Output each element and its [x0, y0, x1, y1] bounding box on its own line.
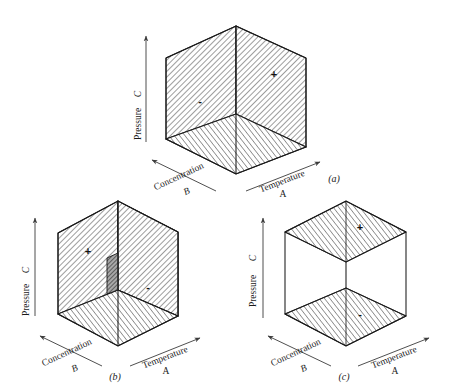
panel-caption-b: (b): [109, 371, 121, 383]
axis-vertical-b: C Pressure: [21, 218, 35, 316]
axis-vertical-name-c: Pressure: [248, 275, 258, 307]
axis-vertical-name-b: Pressure: [21, 284, 31, 316]
axis-vertical-letter-b: C: [21, 266, 31, 273]
axis-vertical-letter-c: C: [248, 254, 258, 261]
panel-caption-a: (a): [328, 173, 340, 185]
axis-depth-letter-c: B: [299, 362, 309, 374]
panel-a: C Pressure Concentration B Temperature A…: [128, 2, 368, 200]
axis-vertical-c: C Pressure: [248, 218, 263, 318]
axis-horizontal-letter-c: A: [392, 366, 399, 376]
axis-depth-b: Concentration B: [40, 336, 102, 374]
panel-caption-c: (c): [338, 371, 350, 383]
axis-depth-letter-b: B: [70, 362, 80, 374]
sign-plus-a: +: [271, 68, 277, 80]
axis-vertical-name-a: Pressure: [133, 108, 143, 140]
panel-c: C Pressure Concentration B Temperature A…: [243, 188, 454, 388]
sign-minus-a: -: [198, 95, 202, 107]
axis-horizontal-c: Temperature A: [358, 338, 429, 376]
axis-horizontal-letter-b: A: [163, 366, 170, 376]
sign-minus-b: -: [146, 281, 150, 293]
panel-b: C Pressure Concentration B Temperature A…: [18, 188, 233, 388]
bottom-face-c: [285, 288, 406, 346]
axis-horizontal-b: Temperature A: [130, 338, 200, 376]
axis-vertical-a: C Pressure: [133, 36, 146, 142]
axis-vertical-letter-a: C: [133, 90, 143, 97]
figure-root: C Pressure Concentration B Temperature A…: [0, 0, 454, 391]
axis-depth-c: Concentration B: [268, 336, 331, 374]
axis-depth-name-c: Concentration: [269, 336, 322, 368]
sign-plus-c: +: [357, 221, 363, 233]
axis-depth-name-b: Concentration: [40, 336, 93, 368]
sign-plus-b: +: [85, 245, 91, 257]
top-face-c: [285, 201, 406, 262]
sign-minus-c: -: [358, 308, 362, 320]
center-column-b: [107, 253, 118, 294]
